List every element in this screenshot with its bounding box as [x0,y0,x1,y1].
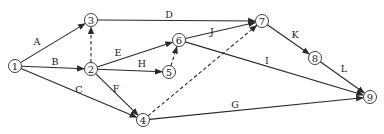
network-diagram: ABCDEFGHIJKL 123456789 [0,0,384,134]
event-node-1: 1 [9,60,22,73]
event-node-6: 6 [173,34,186,47]
node-number: 5 [166,67,172,78]
activity-label-j: J [209,26,214,37]
event-node-9: 9 [364,91,377,104]
event-node-3: 3 [85,14,98,27]
node-number: 8 [312,53,318,64]
event-node-4: 4 [137,114,150,127]
activity-arrow-b [21,66,84,68]
node-number: 9 [367,92,373,103]
activity-label-g: G [231,99,239,110]
activity-arrow-e [97,42,172,67]
node-number: 4 [140,115,146,126]
activity-arrow-d [97,20,255,21]
activity-label-d: D [165,9,173,20]
activity-arrow-k [267,25,309,54]
activity-label-a: A [33,36,41,47]
node-number: 3 [88,15,94,26]
node-number: 2 [88,64,94,75]
activity-arrow-h [97,69,162,71]
event-node-5: 5 [163,66,176,79]
activity-labels: ABCDEFGHIJKL [33,9,348,110]
event-node-2: 2 [85,63,98,76]
node-number: 1 [12,61,18,72]
activity-label-c: C [75,84,82,95]
activity-label-e: E [115,47,122,58]
activity-label-b: B [52,56,59,67]
activity-arrow-i [185,42,363,95]
event-node-7: 7 [256,15,269,28]
activity-label-h: H [138,58,146,69]
network-diagram-svg: ABCDEFGHIJKL 123456789 [0,0,384,134]
activity-arrows [21,20,365,119]
activity-arrow-g [149,98,363,120]
activity-label-k: K [291,29,299,40]
node-number: 7 [259,16,265,27]
activity-label-i: I [265,55,269,66]
activity-label-f: F [113,83,120,94]
activity-arrow-j [185,23,255,39]
event-nodes: 123456789 [9,14,377,127]
node-number: 6 [176,35,182,46]
event-node-8: 8 [309,52,322,65]
dummy-arrow-5-6 [171,47,177,66]
activity-label-l: L [341,63,348,74]
